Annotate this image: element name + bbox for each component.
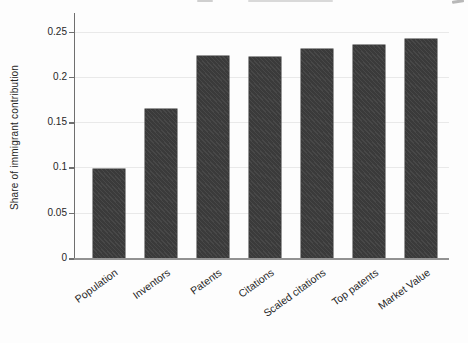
x-category-label: Top patents [329,266,380,308]
y-axis-line [74,13,76,260]
x-category-label: Citations [236,266,276,300]
y-tick-label: 0.2 [20,71,67,83]
y-tick-mark [69,167,74,169]
x-category-label: Patents [188,266,224,297]
y-tick-label: 0.15 [20,116,67,128]
gridline [75,32,449,33]
scan-artifact-smudge [197,0,213,2]
y-tick-mark [69,122,74,124]
scan-artifact-smudge [248,0,333,2]
x-category-label: Inventors [130,266,172,301]
bar-scaled-citations [301,49,333,258]
bar-chart-figure: Share of immigrant contribution 00.050.1… [0,0,468,343]
x-category-label: Population [73,266,120,305]
y-tick-label: 0.25 [20,26,67,38]
bar-top-patents [353,45,385,258]
bar-market-value [405,39,437,258]
bar-inventors [145,109,177,258]
x-category-label: Market Value [376,266,432,312]
bar-patents [197,56,229,258]
y-tick-label: 0.05 [20,207,67,219]
y-tick-label: 0 [20,252,67,264]
scan-artifact-smudge [452,0,464,4]
x-axis-line [73,258,449,260]
bar-population [93,169,125,258]
y-tick-mark [69,77,74,79]
scanned-figure-page: Share of immigrant contribution 00.050.1… [0,0,468,343]
y-tick-mark [69,213,74,215]
y-axis-label: Share of immigrant contribution [9,27,20,249]
y-tick-label: 0.1 [20,161,67,173]
y-tick-mark [69,258,74,260]
bar-citations [249,57,281,258]
y-tick-mark [69,32,74,34]
